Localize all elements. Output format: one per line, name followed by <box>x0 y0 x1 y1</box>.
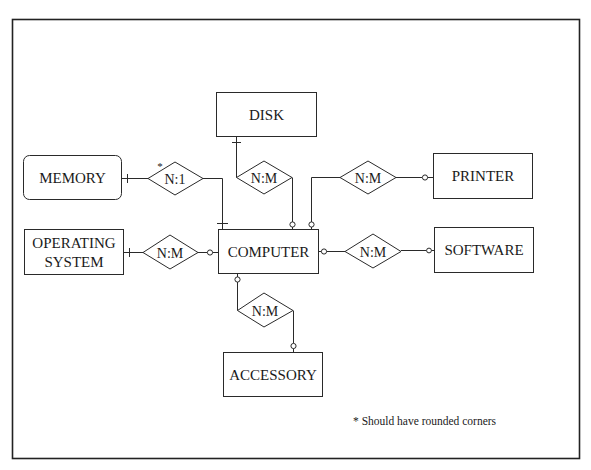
zero-circle-icon <box>207 250 212 255</box>
relationship-label: N:1 <box>165 172 186 187</box>
asterisk-marker: * <box>157 160 163 172</box>
zero-circle-icon <box>235 277 240 282</box>
zero-circle-icon <box>321 249 326 254</box>
entity-label: PRINTER <box>452 168 515 184</box>
zero-circle-icon <box>422 175 427 180</box>
entity-label: ACCESSORY <box>229 367 317 383</box>
connector-line <box>203 179 223 230</box>
relationship-computer-software[interactable]: N:M <box>319 234 435 268</box>
zero-circle-icon <box>290 222 295 227</box>
connector-line <box>312 178 341 223</box>
entity-accessory[interactable]: ACCESSORY <box>224 353 323 397</box>
entity-printer[interactable]: PRINTER <box>434 154 533 199</box>
entity-disk[interactable]: DISK <box>217 93 317 137</box>
entity-label: SOFTWARE <box>444 242 523 258</box>
relationship-memory-computer[interactable]: N:1 * <box>122 160 229 230</box>
entity-operating-system[interactable]: OPERATING SYSTEM <box>25 230 124 275</box>
entity-label: MEMORY <box>39 170 106 186</box>
zero-circle-icon <box>291 343 296 348</box>
relationship-label: N:M <box>360 245 387 260</box>
relationship-computer-accessory[interactable]: N:M <box>235 274 296 353</box>
relationship-os-computer[interactable]: N:M <box>124 235 219 269</box>
relationship-label: N:M <box>251 171 278 186</box>
entity-label: COMPUTER <box>228 244 310 260</box>
footnote: * Should have rounded corners <box>353 415 497 427</box>
zero-circle-icon <box>427 248 432 253</box>
entity-label: DISK <box>249 107 284 123</box>
relationship-disk-computer[interactable]: N:M <box>232 137 295 230</box>
zero-circle-icon <box>309 222 314 227</box>
relationship-computer-printer[interactable]: N:M <box>309 161 434 230</box>
entity-memory[interactable]: MEMORY <box>24 156 122 200</box>
er-diagram: DISK MEMORY PRINTER OPERATING SYSTEM COM… <box>0 0 591 470</box>
entity-label-line2: SYSTEM <box>44 254 103 270</box>
relationship-label: N:M <box>252 304 279 319</box>
entity-computer[interactable]: COMPUTER <box>219 230 319 274</box>
relationship-label: N:M <box>355 171 382 186</box>
relationship-label: N:M <box>157 246 184 261</box>
entity-software[interactable]: SOFTWARE <box>435 228 534 273</box>
entity-label-line1: OPERATING <box>32 235 116 251</box>
